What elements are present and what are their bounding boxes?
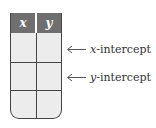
xy-table: x y <box>10 13 62 119</box>
header-x: x <box>11 13 35 33</box>
row-divider <box>11 90 61 91</box>
table-header: x y <box>11 13 61 33</box>
left-arrow-icon <box>66 45 86 54</box>
column-divider <box>36 33 37 118</box>
row-divider <box>11 62 61 63</box>
header-y: y <box>35 13 61 33</box>
y-intercept-label: y-intercept <box>66 70 151 84</box>
left-arrow-icon <box>66 73 86 82</box>
x-intercept-label: x-intercept <box>66 42 151 56</box>
